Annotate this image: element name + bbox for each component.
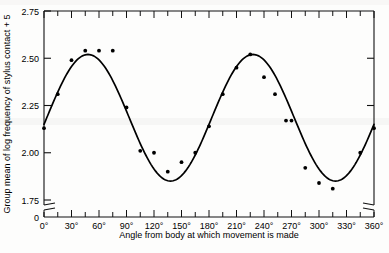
- x-axis-title: Angle from body at which movement is mad…: [119, 230, 299, 240]
- data-point: [42, 126, 46, 130]
- y-tick-label: 1.75: [21, 196, 39, 206]
- data-point: [303, 166, 307, 170]
- data-point: [152, 151, 156, 155]
- data-point: [372, 126, 376, 130]
- data-point: [221, 92, 225, 96]
- data-point: [138, 149, 142, 153]
- y-axis-title: Group mean of log frequency of stylus co…: [2, 15, 12, 214]
- data-point: [97, 49, 101, 53]
- data-point: [70, 58, 74, 62]
- axis-break-right-lower: [363, 208, 374, 210]
- x-tick-label: 30°: [65, 221, 79, 231]
- axis-break-right-upper: [363, 203, 374, 205]
- data-point: [56, 92, 60, 96]
- data-point: [248, 53, 252, 57]
- axis-break-left-lower: [44, 208, 55, 210]
- data-point: [193, 151, 197, 155]
- y-tick-label: 2.75: [21, 7, 39, 17]
- fitted-curve: [44, 54, 374, 181]
- axis-break-left-upper: [44, 203, 55, 205]
- x-tick-label: 0°: [40, 221, 49, 231]
- x-tick-label: 300°: [310, 221, 329, 231]
- data-point: [207, 124, 211, 128]
- data-point: [180, 160, 184, 164]
- data-point: [317, 181, 321, 185]
- data-point: [273, 92, 277, 96]
- x-tick-label: 60°: [92, 221, 106, 231]
- y-tick-label: 2.50: [21, 54, 39, 64]
- data-point: [284, 119, 288, 123]
- x-tick-label: 330°: [337, 221, 356, 231]
- data-point: [235, 66, 239, 70]
- data-point: [125, 105, 129, 109]
- data-point: [358, 151, 362, 155]
- data-point: [83, 49, 87, 53]
- y-tick-label: 2.00: [21, 148, 39, 158]
- data-point: [111, 49, 115, 53]
- data-point: [290, 119, 294, 123]
- x-tick-label: 360°: [365, 221, 384, 231]
- data-point: [262, 75, 266, 79]
- data-point: [166, 170, 170, 174]
- y-axis-origin-label: 0: [34, 213, 39, 223]
- sinusoid-scatter-plot: 1.752.002.252.502.7500°30°60°90°120°150°…: [0, 0, 389, 253]
- chart-figure: 1.752.002.252.502.7500°30°60°90°120°150°…: [0, 0, 389, 253]
- data-point: [331, 187, 335, 191]
- y-tick-label: 2.25: [21, 101, 39, 111]
